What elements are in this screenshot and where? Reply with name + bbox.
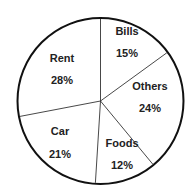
slice-value-bills: 15% — [116, 47, 138, 59]
slice-label-bills: Bills — [115, 25, 138, 37]
slice-value-others: 24% — [139, 102, 161, 114]
slice-label-foods: Foods — [106, 137, 139, 149]
slice-value-car: 21% — [49, 148, 71, 160]
pie-chart-svg: Bills 15% Others 24% Foods 12% Car 21% R… — [0, 0, 195, 193]
slice-label-others: Others — [132, 80, 167, 92]
slice-label-rent: Rent — [50, 52, 75, 64]
slice-value-foods: 12% — [111, 159, 133, 171]
pie-chart: Bills 15% Others 24% Foods 12% Car 21% R… — [0, 0, 195, 193]
slice-value-rent: 28% — [51, 74, 73, 86]
slice-label-car: Car — [51, 125, 70, 137]
